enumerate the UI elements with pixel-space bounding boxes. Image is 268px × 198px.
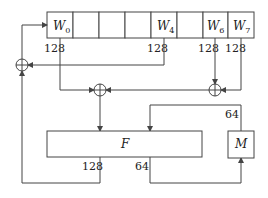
register-cell-3: [125, 12, 151, 38]
register-cell-1: [73, 12, 99, 38]
lfsr-diagram: W0 W4 W6 W7 128 128 128 128 F: [0, 0, 268, 198]
width-label-w0: 128: [44, 42, 65, 55]
width-label-w4: 128: [147, 42, 168, 55]
m-block-label: M: [234, 137, 248, 151]
register: W0 W4 W6 W7: [47, 12, 254, 38]
width-label-w6: 128: [198, 42, 219, 55]
width-label-f-out-right: 64: [135, 160, 149, 173]
xor-left-icon: [16, 59, 28, 71]
xor-right-icon: [209, 84, 221, 96]
xor-mid-icon: [94, 84, 106, 96]
register-cell-5: [177, 12, 203, 38]
wire-w0-to-xor-mid: [60, 38, 94, 90]
register-cell-2: [99, 12, 125, 38]
width-label-f-out-left: 128: [82, 160, 103, 173]
width-label-w7: 128: [225, 42, 246, 55]
f-block-label: F: [120, 137, 130, 151]
width-label-m-out: 64: [225, 108, 239, 121]
wire-f-to-m: [150, 157, 241, 183]
